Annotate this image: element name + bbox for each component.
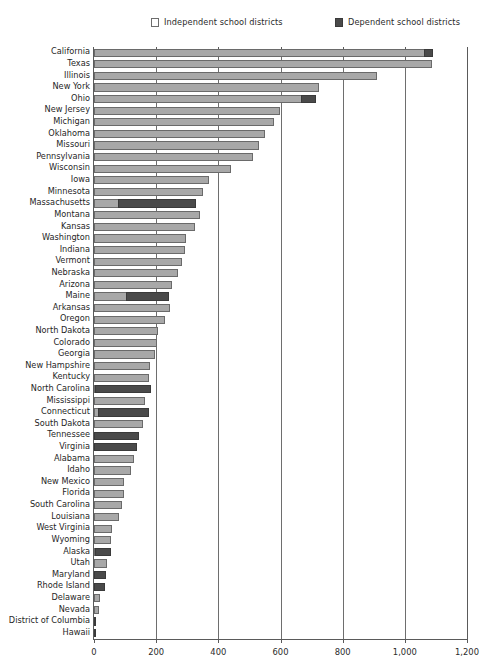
bar-row-label: Nebraska (51, 268, 93, 277)
stacked-bar (94, 501, 122, 509)
bar-row-label: Indiana (60, 245, 93, 254)
bar-row: Missouri (0, 140, 494, 151)
bar-row: Massachusetts (0, 198, 494, 209)
bar-row: Alaska (0, 546, 494, 557)
stacked-bar (94, 281, 172, 289)
bar-row-label: Connecticut (41, 407, 93, 416)
bar-row-label: Maryland (52, 570, 93, 579)
bar-row: Minnesota (0, 186, 494, 197)
bar-segment-independent (94, 153, 253, 161)
bar-row-label: Maine (65, 291, 93, 300)
x-axis-tick-label: 1,200 (455, 647, 479, 657)
bar-row-label: Mississippi (46, 396, 93, 405)
bar-row-label: Washington (42, 233, 93, 242)
bar-segment-independent (94, 234, 186, 242)
bar-row: District of Columbia (0, 616, 494, 627)
bar-row-label: Wisconsin (49, 163, 93, 172)
stacked-bar (94, 130, 265, 138)
bar-segment-independent (94, 339, 157, 347)
bar-row-label: Florida (62, 488, 93, 497)
bar-segment-independent (94, 72, 377, 80)
bar-row: Oklahoma (0, 128, 494, 139)
tick-mark-1000 (405, 639, 406, 643)
bar-segment-independent (94, 269, 178, 277)
stacked-bar (94, 397, 145, 405)
bar-row: Oregon (0, 314, 494, 325)
bar-row: Kansas (0, 221, 494, 232)
bar-row: Wisconsin (0, 163, 494, 174)
stacked-bar (94, 141, 259, 149)
bar-row: Colorado (0, 337, 494, 348)
stacked-bar (94, 83, 319, 91)
stacked-bar (94, 223, 195, 231)
bar-segment-independent (94, 118, 274, 126)
x-axis-tick-label: 1,000 (393, 647, 417, 657)
bar-segment-independent (94, 199, 119, 207)
stacked-bar (94, 478, 124, 486)
bar-row: Texas (0, 59, 494, 70)
bar-segment-independent (94, 141, 259, 149)
bar-row: Tennessee (0, 430, 494, 441)
bar-row-label: Hawaii (63, 628, 93, 637)
bar-row: North Dakota (0, 326, 494, 337)
bar-segment-independent (94, 513, 119, 521)
tick-mark-800 (343, 639, 344, 643)
stacked-bar (94, 118, 274, 126)
bar-row: Kentucky (0, 372, 494, 383)
stacked-bar (94, 408, 149, 416)
tick-mark-600 (281, 639, 282, 643)
bar-row: Maryland (0, 569, 494, 580)
bar-row-label: Tennessee (47, 430, 93, 439)
bar-segment-independent (94, 292, 127, 300)
x-axis-tick-label: 800 (335, 647, 351, 657)
bar-row: Hawaii (0, 627, 494, 638)
bar-row-label: New Jersey (45, 105, 93, 114)
bar-row: Ohio (0, 93, 494, 104)
tick-mark-400 (218, 639, 219, 643)
bar-row-label: Alaska (63, 547, 93, 556)
bar-segment-independent (94, 176, 209, 184)
bar-row: Delaware (0, 593, 494, 604)
bar-segment-dependent (95, 548, 111, 556)
stacked-bar (94, 339, 157, 347)
bar-row: Connecticut (0, 407, 494, 418)
stacked-bar (94, 594, 100, 602)
legend-swatch-dependent-icon (335, 18, 343, 27)
bar-row-label: Pennsylvania (36, 152, 93, 161)
bar-segment-independent (94, 211, 200, 219)
bar-row-label: Louisiana (51, 512, 93, 521)
bar-row-label: Kansas (61, 222, 93, 231)
bar-segment-dependent (94, 571, 106, 579)
bar-segment-independent (94, 258, 182, 266)
x-axis-tick-label: 400 (210, 647, 226, 657)
stacked-bar (94, 513, 119, 521)
stacked-bar (94, 374, 149, 382)
bar-segment-independent (94, 304, 170, 312)
stacked-bar (94, 350, 155, 358)
tick-mark-1200 (467, 639, 468, 643)
bar-row-label: Colorado (53, 338, 93, 347)
bar-row-label: West Virginia (36, 523, 93, 532)
stacked-bar (94, 629, 96, 637)
bar-row-label: Vermont (55, 256, 93, 265)
bar-row-label: Iowa (71, 175, 93, 184)
bar-row: Pennsylvania (0, 151, 494, 162)
bar-segment-dependent (118, 199, 196, 207)
bar-row-label: California (51, 47, 93, 56)
bar-row: Arkansas (0, 302, 494, 313)
bar-segment-independent (94, 420, 143, 428)
bar-segment-independent (94, 327, 158, 335)
bar-segment-independent (94, 350, 155, 358)
bar-row-label: Arizona (59, 280, 93, 289)
bar-segment-independent (94, 397, 145, 405)
bar-row: Wyoming (0, 535, 494, 546)
stacked-bar (94, 327, 158, 335)
bar-segment-dependent (94, 617, 96, 625)
bar-row: Washington (0, 233, 494, 244)
legend-label-dependent: Dependent school districts (348, 17, 460, 27)
stacked-bar (94, 617, 96, 625)
stacked-bar (94, 95, 316, 103)
bar-segment-independent (94, 478, 124, 486)
bar-segment-independent (94, 594, 100, 602)
bar-segment-independent (94, 455, 134, 463)
